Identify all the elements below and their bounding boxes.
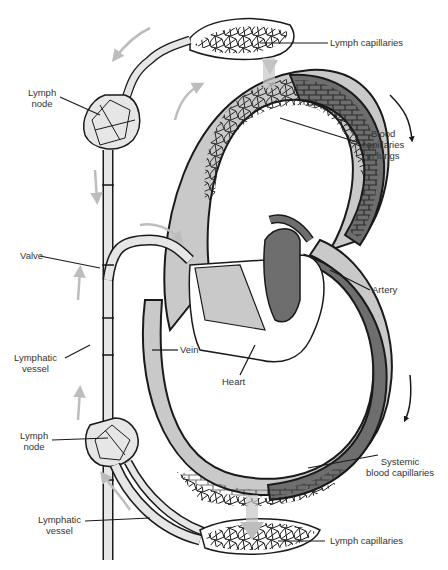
label-blood-capillaries-lungs-line2: capillaries — [362, 139, 404, 150]
label-lymph-node-bottom-line1: Lymph — [20, 430, 48, 441]
label-lymphatic-vessel-bottom: Lymphatic vessel — [38, 514, 81, 536]
heart — [189, 219, 324, 362]
label-artery: Artery — [372, 284, 397, 295]
label-lymphatic-vessel-mid: Lymphatic vessel — [14, 352, 57, 374]
label-lymphatic-vessel-mid-line1: Lymphatic — [14, 352, 57, 363]
label-lymph-node-bottom: Lymph node — [20, 430, 48, 452]
label-lymph-capillaries-top: Lymph capillaries — [330, 37, 403, 48]
label-systemic-capillaries: Systemic blood capillaries — [366, 456, 434, 478]
label-lymph-node-bottom-line2: node — [20, 441, 48, 452]
label-lymph-node-top-line2: node — [28, 98, 56, 109]
label-lymph-node-top: Lymph node — [28, 87, 56, 109]
label-lymphatic-vessel-bottom-line2: vessel — [38, 525, 81, 536]
label-lymphatic-vessel-mid-line2: vessel — [14, 363, 57, 374]
label-blood-capillaries-lungs-line1: Blood — [362, 128, 404, 139]
label-valve: Valve — [20, 250, 43, 261]
label-vein: Vein — [180, 344, 199, 355]
label-systemic-capillaries-line1: Systemic — [366, 456, 434, 467]
label-blood-capillaries-lungs: Blood capillaries in lungs — [362, 128, 404, 161]
label-lymphatic-vessel-bottom-line1: Lymphatic — [38, 514, 81, 525]
label-lymph-capillaries-bottom: Lymph capillaries — [330, 535, 403, 546]
label-systemic-capillaries-line2: blood capillaries — [366, 467, 434, 478]
label-lymph-node-top-line1: Lymph — [28, 87, 56, 98]
label-heart: Heart — [222, 376, 245, 387]
label-blood-capillaries-lungs-line3: in lungs — [362, 150, 404, 161]
